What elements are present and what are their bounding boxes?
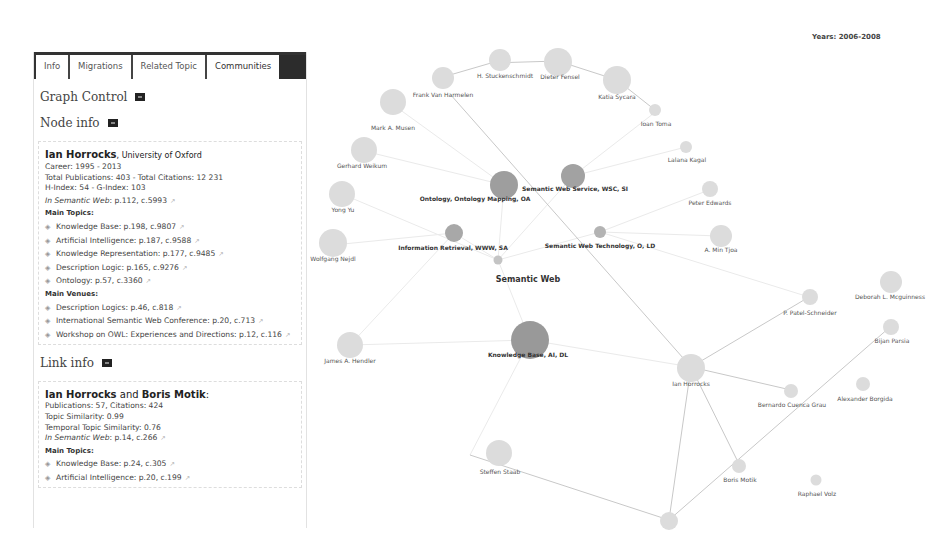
svg-text:Peter Edwards: Peter Edwards	[689, 199, 732, 206]
list-item[interactable]: ◈Knowledge Base: p.198, c.9807↗	[45, 222, 295, 233]
svg-text:Bernardo Cuenca Grau: Bernardo Cuenca Grau	[758, 401, 827, 408]
svg-text:Steffen Staab: Steffen Staab	[480, 468, 521, 475]
link-author-a[interactable]: Ian Horrocks	[45, 389, 117, 400]
network-graph[interactable]: H. Stuckenschmidt Dieter Fensel Frank Va…	[300, 30, 945, 530]
list-item[interactable]: ◈Description Logic: p.165, c.9276↗	[45, 263, 295, 274]
bullet-icon: ◈	[45, 473, 52, 484]
node-totals: Total Publications: 403 - Total Citation…	[45, 173, 295, 184]
svg-text:A. Min Tjoa: A. Min Tjoa	[704, 246, 737, 254]
list-item[interactable]: ◈Description Logics: p.46, c.818↗	[45, 303, 295, 314]
svg-text:Wolfgang Nejdl: Wolfgang Nejdl	[310, 255, 356, 263]
list-item[interactable]: ◈Ontology: p.57, c.3360↗	[45, 276, 295, 287]
external-link-icon[interactable]: ↗	[146, 276, 151, 287]
external-link-icon[interactable]: ↗	[218, 249, 223, 260]
svg-text:Raphael Volz: Raphael Volz	[798, 490, 836, 498]
svg-text:Alexander Borgida: Alexander Borgida	[837, 395, 893, 403]
faint-edges	[333, 101, 809, 455]
list-item[interactable]: ◈Artificial Intelligence: p.187, c.9588↗	[45, 236, 295, 247]
external-link-icon[interactable]: ↗	[160, 434, 165, 442]
svg-text:Semantic Web: Semantic Web	[496, 275, 561, 284]
svg-text:Bijan Parsia: Bijan Parsia	[875, 337, 910, 345]
side-panel: Info Migrations Related Topic Communitie…	[33, 52, 307, 528]
svg-text:Frank Van Harmelen: Frank Van Harmelen	[413, 91, 474, 98]
node-main-venues-label: Main Venues:	[45, 289, 295, 300]
svg-text:Semantic Web Service, WSC, SI: Semantic Web Service, WSC, SI	[522, 185, 628, 192]
external-link-icon[interactable]: ↗	[185, 473, 190, 484]
svg-text:Dieter Fensel: Dieter Fensel	[540, 73, 580, 80]
external-link-icon[interactable]: ↗	[176, 303, 181, 314]
bullet-icon: ◈	[45, 249, 52, 260]
author-labels: H. Stuckenschmidt Dieter Fensel Frank Va…	[310, 72, 925, 498]
graph-control-title: Graph Control	[40, 90, 127, 104]
link-in-topic: In Semantic Web: p.14, c.266↗	[45, 433, 295, 444]
link-temporal-similarity: Temporal Topic Similarity: 0.76	[45, 423, 295, 434]
svg-text:Lalana Kagal: Lalana Kagal	[668, 156, 707, 164]
node-info-header: Node info	[40, 115, 306, 131]
link-main-topics-label: Main Topics:	[45, 446, 295, 457]
bullet-icon: ◈	[45, 236, 52, 247]
bullet-icon: ◈	[45, 316, 52, 327]
link-topic-similarity: Topic Similarity: 0.99	[45, 412, 295, 423]
svg-text:Deborah L. Mcguinness: Deborah L. Mcguinness	[855, 293, 925, 301]
list-item[interactable]: ◈International Semantic Web Conference: …	[45, 316, 295, 327]
external-link-icon[interactable]: ↗	[182, 263, 187, 274]
svg-text:Semantic Web Technology, O, LD: Semantic Web Technology, O, LD	[545, 242, 655, 250]
node-info-title: Node info	[40, 116, 100, 130]
bullet-icon: ◈	[45, 330, 52, 341]
graph-control-header: Graph Control	[40, 89, 306, 105]
svg-text:James A. Hendler: James A. Hendler	[323, 357, 376, 365]
graph-control-toggle-icon[interactable]	[135, 93, 145, 101]
bullet-icon: ◈	[45, 276, 52, 287]
svg-text:Ioan Toma: Ioan Toma	[641, 120, 672, 127]
author-nodes[interactable]	[319, 48, 902, 530]
svg-text:P. Patel-Schneider: P. Patel-Schneider	[783, 309, 837, 316]
svg-text:Ian Horrocks: Ian Horrocks	[672, 380, 710, 387]
link-info-title: Link info	[40, 356, 94, 370]
tab-info[interactable]: Info	[36, 55, 70, 79]
external-link-icon[interactable]: ↗	[258, 316, 263, 327]
node-info-box: Ian Horrocks, University of Oxford Caree…	[38, 141, 302, 345]
tab-migrations[interactable]: Migrations	[70, 55, 133, 79]
external-link-icon[interactable]: ↗	[169, 459, 174, 470]
bullet-icon: ◈	[45, 303, 52, 314]
svg-text:Boris Motik: Boris Motik	[723, 476, 757, 483]
tab-bar: Info Migrations Related Topic Communitie…	[34, 52, 306, 79]
external-link-icon[interactable]: ↗	[285, 331, 290, 339]
external-link-icon[interactable]: ↗	[194, 236, 199, 247]
list-item[interactable]: ◈Knowledge Representation: p.177, c.9485…	[45, 249, 295, 260]
list-item[interactable]: ◈Artificial Intelligence: p.20, c.199↗	[45, 473, 295, 484]
node-main-topics-label: Main Topics:	[45, 208, 295, 219]
svg-text:Knowledge Base, AI, DL: Knowledge Base, AI, DL	[488, 351, 568, 359]
link-publications: Publications: 57, Citations: 424	[45, 401, 295, 412]
community-nodes[interactable]	[445, 164, 606, 359]
list-item[interactable]: ◈Workshop on OWL: Experiences and Direct…	[45, 330, 295, 341]
tab-related-topic[interactable]: Related Topic	[133, 55, 207, 79]
svg-text:H. Stuckenschmidt: H. Stuckenschmidt	[477, 72, 534, 79]
external-link-icon[interactable]: ↗	[170, 197, 175, 205]
link-info-toggle-icon[interactable]	[102, 359, 112, 367]
link-info-header: Link info	[40, 355, 306, 371]
node-name[interactable]: Ian Horrocks	[45, 149, 117, 160]
bullet-icon: ◈	[45, 459, 52, 470]
node-in-topic: In Semantic Web: p.112, c.5993↗	[45, 196, 295, 207]
bullet-icon: ◈	[45, 222, 52, 233]
node-career: Career: 1995 - 2013	[45, 162, 295, 173]
node-info-toggle-icon[interactable]	[108, 119, 118, 127]
svg-text:Information Retrieval, WWW, SA: Information Retrieval, WWW, SA	[398, 244, 508, 251]
node-indices: H-Index: 54 - G-Index: 103	[45, 183, 295, 194]
link-info-box: Ian Horrocks and Boris Motik: Publicatio…	[38, 381, 302, 488]
bullet-icon: ◈	[45, 263, 52, 274]
svg-text:Ontology, Ontology Mapping, OA: Ontology, Ontology Mapping, OA	[420, 195, 531, 203]
tab-communities[interactable]: Communities	[207, 55, 279, 79]
svg-text:Yong Yu: Yong Yu	[331, 206, 355, 214]
external-link-icon[interactable]: ↗	[179, 222, 184, 233]
svg-text:Katia Sycara: Katia Sycara	[598, 93, 636, 101]
node-affiliation: , University of Oxford	[117, 151, 202, 160]
svg-text:Mark A. Musen: Mark A. Musen	[371, 124, 415, 131]
svg-text:Gerhard Weikum: Gerhard Weikum	[337, 162, 387, 169]
link-author-b[interactable]: Boris Motik	[142, 389, 206, 400]
list-item[interactable]: ◈Knowledge Base: p.24, c.305↗	[45, 459, 295, 470]
